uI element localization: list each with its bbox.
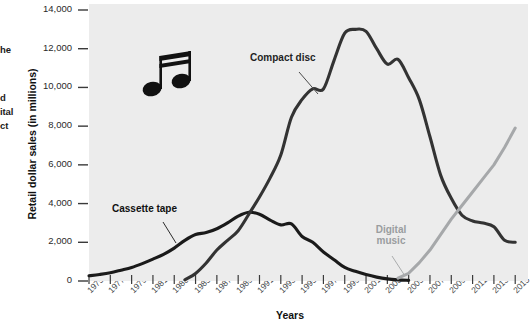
digital-music-label-line2: music — [358, 235, 424, 246]
cassette-tape-label: Cassette tape — [112, 203, 177, 214]
x-axis-tick-marks — [89, 275, 515, 284]
digital-music-label: Digital music — [358, 224, 424, 246]
compact-disc-label: Compact disc — [250, 52, 316, 63]
y-axis-tick-marks — [78, 10, 88, 281]
digital-music-label-line1: Digital — [358, 224, 424, 235]
